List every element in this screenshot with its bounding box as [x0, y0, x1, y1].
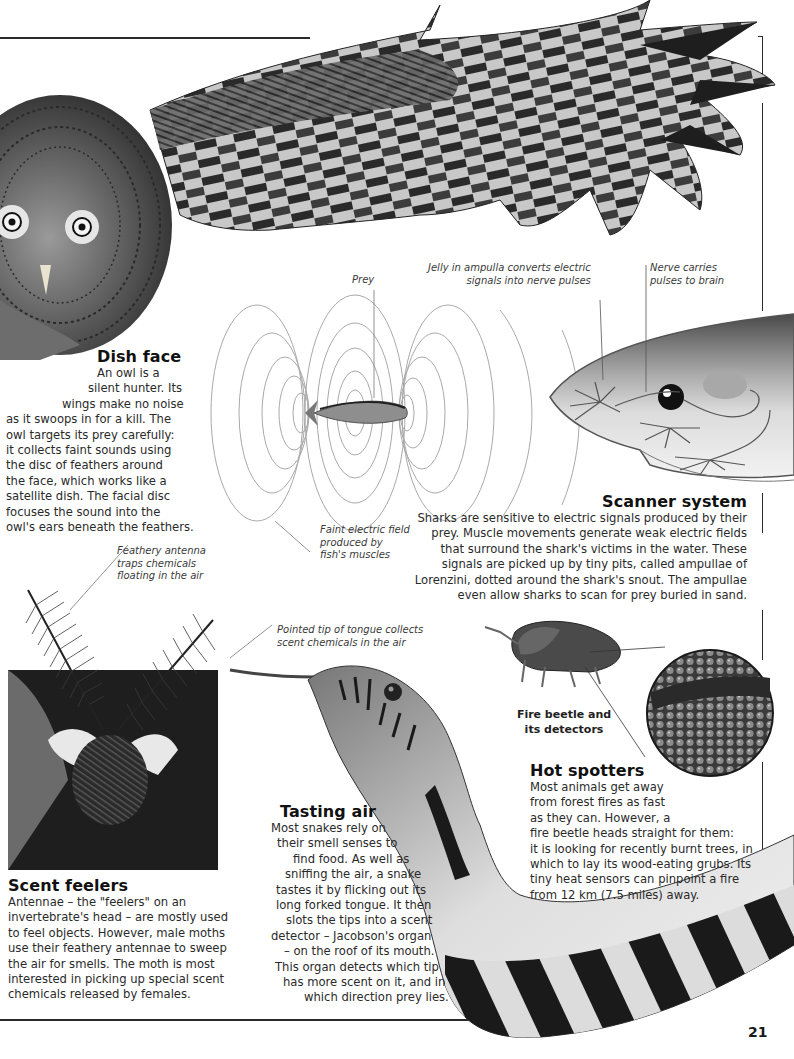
text-tasting-air: Most snakes rely on their smell senses t…: [271, 821, 449, 1006]
tongue-leader-line: [230, 625, 272, 658]
field-leader-line: [275, 521, 310, 552]
heading-tasting-air: Tasting air: [280, 802, 376, 821]
moth-illustration: [8, 580, 218, 870]
caption-nerve: Nerve carries pulses to brain: [650, 262, 724, 287]
right-rule-scanner: [762, 493, 763, 533]
text-scanner-system: Sharks are sensitive to electric signals…: [415, 511, 747, 603]
electric-field-diagram: [200, 290, 580, 530]
text-scent-feelers: Antennae – the "feelers" on an invertebr…: [8, 895, 228, 1003]
owl-wing: [150, 0, 775, 235]
heading-scent-feelers: Scent feelers: [8, 876, 128, 895]
caption-antenna: Feathery antenna traps chemicals floatin…: [117, 545, 206, 583]
shark-snout-illustration: [540, 300, 794, 490]
heading-dish-face: Dish face: [97, 347, 181, 366]
page-number: 21: [748, 1024, 767, 1040]
caption-prey: Prey: [352, 274, 374, 287]
text-hot-spotters: Most animals get away from forest fires …: [530, 780, 753, 903]
caption-tongue: Pointed tip of tongue collects scent che…: [277, 624, 423, 649]
heading-hot-spotters: Hot spotters: [530, 761, 644, 780]
text-dish-face: An owl is a silent hunter. Its wings mak…: [6, 366, 216, 535]
tongue: [230, 670, 315, 677]
heading-scanner-system: Scanner system: [602, 492, 747, 511]
prey-fish: [305, 400, 407, 426]
caption-field: Faint electric field produced by fish's …: [320, 524, 410, 562]
owl-head: [0, 95, 172, 360]
caption-beetle: Fire beetle and its detectors: [508, 707, 620, 737]
caption-jelly: Jelly in ampulla converts electric signa…: [428, 262, 591, 287]
